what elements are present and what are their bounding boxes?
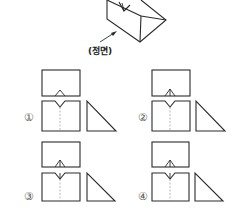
front-direction-arrow <box>100 31 117 42</box>
option-4-number: ④ <box>138 190 148 203</box>
side-view <box>87 101 116 131</box>
side-view <box>87 173 115 201</box>
isometric-object <box>107 0 166 42</box>
front-view <box>152 101 190 131</box>
top-view <box>152 142 189 167</box>
option-3-number: ③ <box>24 190 34 203</box>
front-view <box>152 173 189 201</box>
option-3: ③ <box>24 142 115 203</box>
top-view <box>42 70 80 96</box>
orthographic-projection-figure: (정면) ① ② ③ ④ <box>0 0 240 215</box>
option-2-number: ② <box>138 111 148 124</box>
top-view <box>42 142 80 167</box>
top-view <box>152 70 190 96</box>
option-1: ① <box>24 70 116 131</box>
front-label: (정면) <box>88 45 112 56</box>
option-4: ④ <box>138 142 223 203</box>
side-view <box>195 173 223 201</box>
side-view <box>196 101 225 131</box>
option-2: ② <box>138 70 225 131</box>
front-view <box>42 101 80 131</box>
option-1-number: ① <box>24 111 34 124</box>
front-view <box>42 173 80 201</box>
